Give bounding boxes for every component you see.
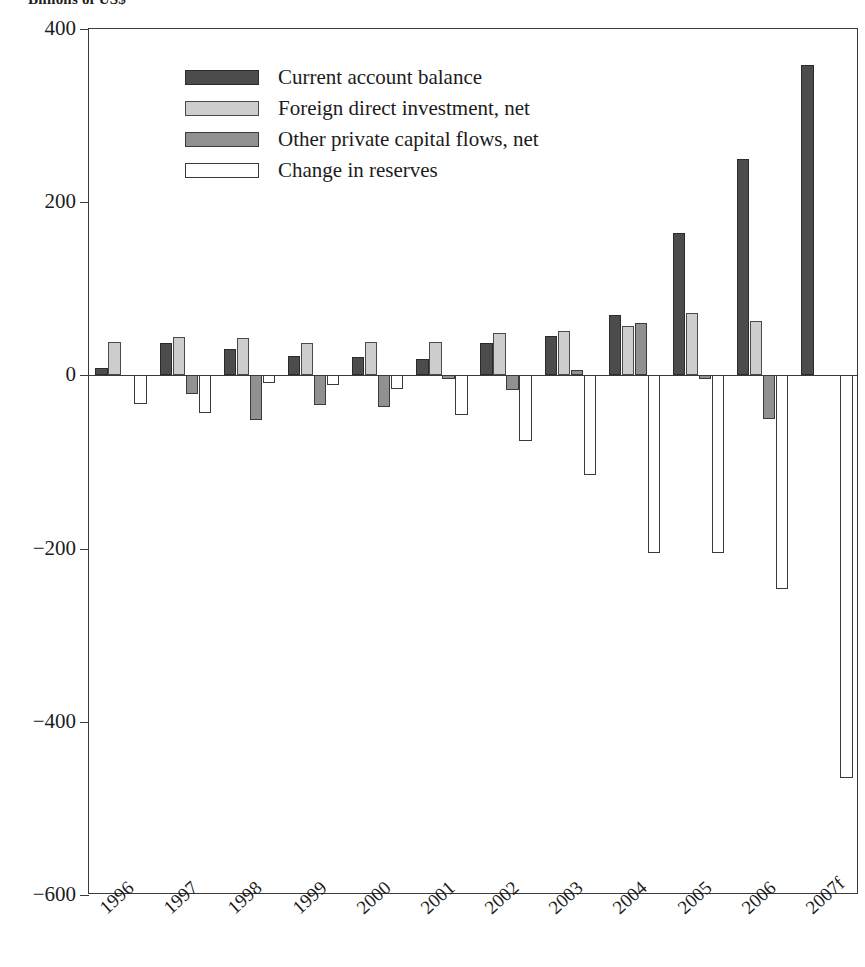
y-tick-label: 400 (2, 18, 76, 39)
bar-1996-series-1 (108, 342, 120, 376)
legend-swatch-other-private-capital-flows (185, 132, 259, 147)
legend-swatch-current-account-balance (185, 70, 259, 85)
y-tick-label: −400 (2, 711, 76, 732)
bar-1999-series-1 (301, 343, 313, 375)
bar-1999-series-3 (327, 375, 339, 385)
bar-1996-series-3 (134, 375, 146, 404)
bar-1998-series-3 (263, 375, 275, 383)
bar-2004-series-2 (635, 323, 647, 375)
bar-2006-series-3 (776, 375, 788, 589)
chart-legend: Current account balance Foreign direct i… (171, 54, 493, 192)
y-tick (80, 202, 89, 203)
bar-2007f-series-0 (801, 65, 813, 375)
bar-2000-series-2 (378, 375, 390, 407)
units-caption: Billions of US$ (28, 0, 126, 8)
bar-2004-series-3 (648, 375, 660, 553)
bar-2003-series-1 (558, 331, 570, 375)
bar-1998-series-2 (250, 375, 262, 419)
bar-2000-series-0 (352, 357, 364, 375)
bar-2004-series-0 (609, 315, 621, 376)
legend-item: Other private capital flows, net (171, 124, 493, 155)
y-tick (80, 895, 89, 896)
bar-2002-series-0 (480, 343, 492, 375)
bar-1997-series-2 (186, 375, 198, 393)
bar-2001-series-1 (429, 342, 441, 376)
bar-1997-series-3 (199, 375, 211, 413)
legend-item: Foreign direct investment, net (171, 93, 493, 124)
y-tick (80, 549, 89, 550)
bar-2005-series-3 (712, 375, 724, 553)
y-tick-label: −600 (2, 884, 76, 905)
bar-1999-series-0 (288, 356, 300, 375)
legend-swatch-foreign-direct-investment (185, 101, 259, 116)
bar-2006-series-1 (750, 321, 762, 376)
y-tick (80, 375, 89, 376)
bar-2000-series-3 (391, 375, 403, 389)
bar-1999-series-2 (314, 375, 326, 404)
bar-1997-series-0 (160, 343, 172, 375)
bar-1998-series-1 (237, 338, 249, 375)
bar-2007f-series-3 (840, 375, 852, 778)
bar-2005-series-0 (673, 233, 685, 375)
bar-2005-series-2 (699, 375, 711, 378)
plot-area: Current account balance Foreign direct i… (88, 28, 858, 894)
bar-2003-series-0 (545, 336, 557, 376)
bar-2003-series-3 (584, 375, 596, 475)
bar-1997-series-1 (173, 337, 185, 375)
bar-1996-series-0 (95, 368, 107, 375)
bar-2001-series-0 (416, 359, 428, 375)
y-tick-label: 200 (2, 191, 76, 212)
legend-item: Change in reserves (171, 155, 493, 186)
bar-2002-series-3 (519, 375, 531, 441)
y-tick-label: −200 (2, 538, 76, 559)
chart-figure: Billions of US$ Current account balance … (0, 0, 865, 967)
bar-1998-series-0 (224, 349, 236, 376)
bar-2001-series-3 (455, 375, 467, 415)
y-tick (80, 722, 89, 723)
legend-item: Current account balance (171, 62, 493, 93)
legend-label: Current account balance (278, 67, 482, 88)
legend-label: Change in reserves (278, 160, 438, 181)
y-tick-label: 0 (2, 364, 76, 385)
bar-2005-series-1 (686, 313, 698, 375)
bar-2004-series-1 (622, 326, 634, 375)
y-tick (80, 29, 89, 30)
bar-2006-series-2 (763, 375, 775, 418)
legend-swatch-change-in-reserves (185, 163, 259, 178)
legend-label: Other private capital flows, net (278, 129, 539, 150)
bar-2002-series-1 (493, 333, 505, 375)
legend-label: Foreign direct investment, net (278, 98, 530, 119)
bar-2000-series-1 (365, 342, 377, 376)
bar-2001-series-2 (442, 375, 454, 378)
bar-2006-series-0 (737, 159, 749, 376)
bar-2003-series-2 (571, 370, 583, 375)
bar-2002-series-2 (506, 375, 518, 390)
